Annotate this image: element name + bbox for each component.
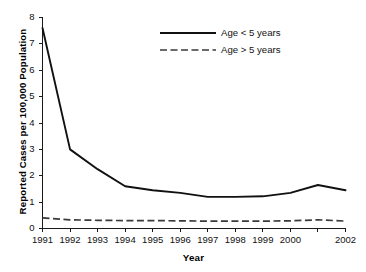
- chart-figure: Reported Cases per 100,000 Population 01…: [0, 0, 366, 272]
- y-tick-label: 4: [19, 118, 35, 128]
- y-tick-label: 6: [19, 65, 35, 75]
- y-tick-label: 7: [19, 38, 35, 48]
- legend-label-2: Age > 5 years: [221, 44, 280, 55]
- series-group: [43, 28, 346, 221]
- plot-canvas: [0, 0, 366, 272]
- legend-samples-group: [160, 33, 216, 50]
- y-tick-label: 0: [19, 223, 35, 233]
- y-tick-label: 3: [19, 144, 35, 154]
- x-axis-title: Year: [42, 252, 345, 263]
- y-tick-label: 2: [19, 170, 35, 180]
- y-tick-label: 8: [19, 12, 35, 22]
- y-tick-label: 1: [19, 197, 35, 207]
- x-tick-label: 2002: [329, 235, 363, 245]
- x-tick-label: 2000: [273, 235, 307, 245]
- y-tick-label: 5: [19, 91, 35, 101]
- series-line-1: [43, 28, 346, 197]
- legend-label-1: Age < 5 years: [221, 27, 280, 38]
- series-line-2: [43, 218, 346, 221]
